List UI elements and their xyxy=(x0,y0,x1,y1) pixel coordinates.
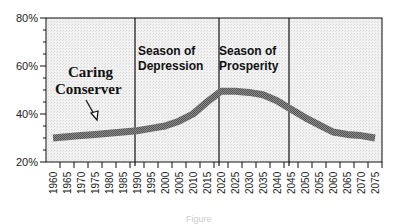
region-label-prosperity-1: Season of xyxy=(219,44,277,58)
x-tick-label: 1965 xyxy=(62,171,73,194)
y-tick-label: 40% xyxy=(16,108,38,120)
x-tick-label: 2040 xyxy=(272,171,283,194)
x-tick-label: 2045 xyxy=(286,171,297,194)
x-tick-label: 1975 xyxy=(90,171,101,194)
annotation-line2: Conserver xyxy=(55,81,122,97)
x-tick-label: 2010 xyxy=(188,171,199,194)
x-tick-label: 2075 xyxy=(370,171,381,194)
y-tick-label: 80% xyxy=(16,12,38,24)
figure-caption: Figure xyxy=(186,214,212,224)
x-tick-label: 2025 xyxy=(230,171,241,194)
x-tick-label: 1985 xyxy=(118,171,129,194)
x-tick-label: 2050 xyxy=(300,171,311,194)
y-axis: 20%40%60%80% xyxy=(16,12,46,168)
x-tick-label: 2005 xyxy=(174,171,185,194)
x-tick-label: 2065 xyxy=(342,171,353,194)
x-tick-label: 2060 xyxy=(328,171,339,194)
x-tick-label: 2070 xyxy=(356,171,367,194)
x-tick-label: 2055 xyxy=(314,171,325,194)
x-tick-label: 1970 xyxy=(76,171,87,194)
x-tick-label: 2015 xyxy=(202,171,213,194)
y-tick-label: 20% xyxy=(16,156,38,168)
x-tick-label: 2035 xyxy=(258,171,269,194)
x-tick-label: 1980 xyxy=(104,171,115,194)
x-tick-label: 1990 xyxy=(132,171,143,194)
x-tick-label: 2020 xyxy=(216,171,227,194)
region-label-depression-1: Season of xyxy=(138,44,196,58)
annotation-line1: Caring xyxy=(68,64,114,80)
region-label-prosperity-2: Prosperity xyxy=(219,59,279,73)
x-tick-label: 2000 xyxy=(160,171,171,194)
x-tick-label: 1995 xyxy=(146,171,157,194)
x-tick-label: 2030 xyxy=(244,171,255,194)
x-tick-label: 1960 xyxy=(48,171,59,194)
region-label-depression-2: Depression xyxy=(138,59,203,73)
line-chart: 20%40%60%80% 196019651970197519801985199… xyxy=(0,0,393,224)
y-tick-label: 60% xyxy=(16,60,38,72)
x-axis: 1960196519701975198019851990199520002005… xyxy=(48,162,383,194)
